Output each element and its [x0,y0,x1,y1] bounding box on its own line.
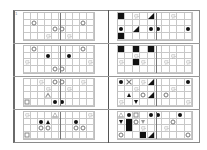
grid-cell [133,46,140,53]
grid-cell [177,99,184,106]
row-divider-3 [13,109,200,110]
grid-cell [140,92,147,99]
grid-cell [133,86,140,93]
gear-icon [46,86,51,91]
grid-cell [177,112,184,119]
grid-cell [87,13,94,20]
grid-cell [140,79,147,86]
grid-cell [118,33,125,40]
grid-cell [162,86,169,93]
grid-cell [87,66,94,73]
grid-cell [185,125,192,132]
grid-cell [66,112,73,119]
gear-icon [39,79,44,84]
grid-cell [177,79,184,86]
grid-cell [125,20,132,27]
circle-icon [53,27,58,32]
grid-cell [133,112,140,119]
grid-cell [133,132,140,139]
grid-cell [148,79,155,86]
grid-cell [45,79,52,86]
grid-cell [80,86,87,93]
grid-cell [177,92,184,99]
grid-cell [133,26,140,33]
grid-cell [185,53,192,60]
circle-icon [53,66,58,71]
grid-cell [52,125,59,132]
panel-midline [156,79,157,106]
grid-cell [73,112,80,119]
dot-icon [53,100,57,104]
grid-cell [31,79,38,86]
grid-cell [133,13,140,20]
grid-cell [162,66,169,73]
grid-cell [38,119,45,126]
grid-cell [185,26,192,33]
grid-cell [162,119,169,126]
grid-cell [87,86,94,93]
grid-cell [185,112,192,119]
grid-cell [140,53,147,60]
panel-l2 [23,45,95,74]
dot-icon [127,113,131,117]
square-fill-icon [118,13,124,19]
grid-cell [140,86,147,93]
grid-cell [118,92,125,99]
gear-icon [163,126,168,131]
grid-cell [31,59,38,66]
square-icon [133,112,138,117]
grid-cell [73,79,80,86]
panel-l4 [23,111,95,140]
grid-cell [170,66,177,73]
grid-cell [66,46,73,53]
tri-up-icon [46,120,50,124]
grid-cell [66,20,73,27]
grid-cell [148,53,155,60]
grid-cell [24,46,31,53]
gear-icon [88,112,93,117]
grid-cell [170,53,177,60]
grid-cell [87,79,94,86]
grid-cell [140,112,147,119]
grid-cell [80,13,87,20]
grid-cell [38,132,45,139]
grid-cell [118,46,125,53]
grid-cell [162,26,169,33]
panel-r2 [117,45,193,74]
grid-cell [73,59,80,66]
grid-cell [38,99,45,106]
grid-cell [125,13,132,20]
grid-cell [162,112,169,119]
grid-cell [52,59,59,66]
grid-cell [31,112,38,119]
circle-icon [141,93,146,98]
grid-cell [45,92,52,99]
gear-icon [170,53,175,58]
grid-cell [66,79,73,86]
grid-cell [73,46,80,53]
grid-cell [118,132,125,139]
panel-midline [156,112,157,139]
grid-cell [148,13,155,20]
square-fill-icon [126,125,132,131]
square-fill-icon [133,46,139,52]
panel-midline [156,46,157,73]
grid-cell [52,46,59,53]
tri-corner-icon [148,13,154,19]
circle-icon [81,46,86,51]
grid-cell [24,112,31,119]
grid-cell [45,66,52,73]
gear-icon [141,60,146,65]
dot-icon [46,54,50,58]
circle-icon [74,126,79,131]
dot-icon [74,120,78,124]
grid-cell [125,125,132,132]
grid-cell [162,13,169,20]
grid-cell [66,13,73,20]
grid-cell [73,26,80,33]
grid-cell [66,125,73,132]
circle-icon [185,132,190,137]
gear-icon [46,33,51,38]
grid-cell [185,33,192,40]
grid-cell [31,13,38,20]
